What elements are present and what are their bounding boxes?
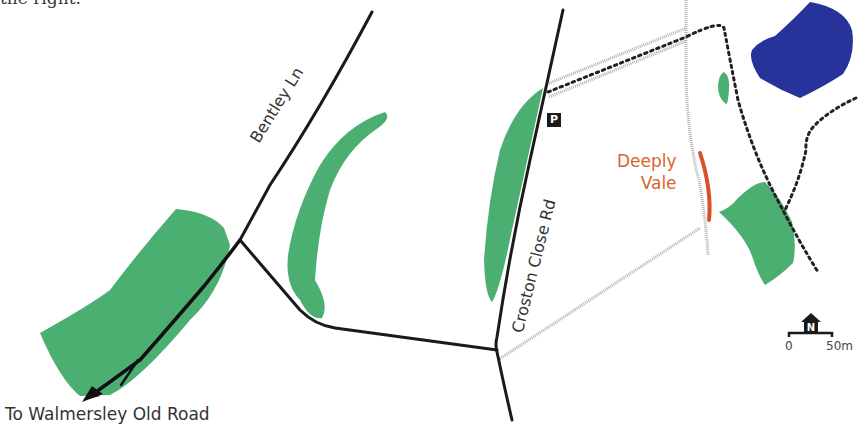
place-label-line2: Vale bbox=[617, 172, 677, 194]
woodland-area-east bbox=[719, 182, 795, 285]
scale-end-label: 50m bbox=[826, 339, 853, 353]
scale-bar bbox=[789, 333, 832, 337]
place-label-deeply-vale: Deeply Vale bbox=[617, 150, 677, 194]
parking-icon: P bbox=[547, 113, 561, 127]
connecting-road bbox=[240, 240, 497, 350]
north-letter: N bbox=[807, 322, 815, 333]
map-canvas: N bbox=[0, 0, 859, 427]
scale-start-label: 0 bbox=[785, 339, 793, 353]
woodland-small-east bbox=[718, 72, 729, 104]
reservoir-water bbox=[751, 2, 853, 98]
woodland-strip-middle bbox=[288, 112, 388, 318]
place-label-line1: Deeply bbox=[617, 150, 677, 172]
woodland-area-southwest bbox=[40, 209, 230, 396]
deeply-vale-marker bbox=[700, 153, 710, 220]
direction-label-walmersley: To Walmersley Old Road bbox=[5, 404, 210, 424]
